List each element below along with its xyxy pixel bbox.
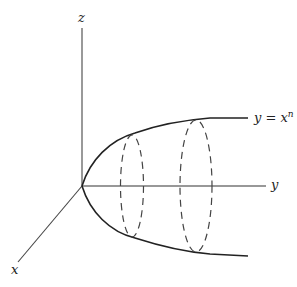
y-axis-label: y — [271, 177, 278, 192]
z-axis-label: z — [78, 10, 85, 25]
upper-curve — [82, 118, 248, 186]
x-axis — [18, 186, 82, 262]
diagram-canvas — [0, 0, 297, 287]
curve-label: y = xn — [254, 109, 294, 125]
diagram: z y x y = xn — [0, 0, 297, 287]
curve-label-exponent: n — [288, 109, 294, 119]
curve-label-base: y = x — [254, 110, 288, 125]
lower-curve — [82, 186, 248, 256]
x-axis-label: x — [11, 262, 18, 277]
